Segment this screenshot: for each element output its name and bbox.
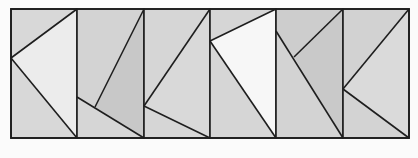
panel-2 xyxy=(77,9,144,138)
panel-4 xyxy=(210,9,276,138)
panel-6 xyxy=(343,9,409,138)
panel-1 xyxy=(11,9,77,138)
panel-diagram xyxy=(0,0,418,158)
panel-3 xyxy=(144,9,210,138)
panel-5 xyxy=(276,9,343,138)
